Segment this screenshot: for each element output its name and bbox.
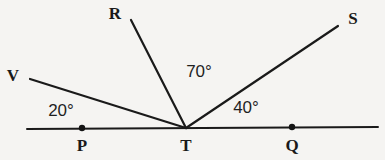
point-label-v: V: [7, 67, 19, 84]
point-label-q: Q: [285, 137, 298, 154]
angle-VTP: 20°: [48, 102, 74, 119]
ray-TR: [131, 20, 186, 128]
point-label-r: R: [109, 5, 121, 22]
point-dot-q: [289, 124, 295, 130]
point-dot-p: [79, 125, 85, 131]
point-label-t: T: [180, 137, 191, 154]
angle-STQ: 40°: [233, 99, 259, 116]
point-label-p: P: [77, 137, 87, 154]
point-label-s: S: [348, 10, 357, 27]
geometry-figure: PTQVRS20°70°40°: [0, 0, 385, 160]
angle-RTS: 70°: [186, 63, 212, 80]
